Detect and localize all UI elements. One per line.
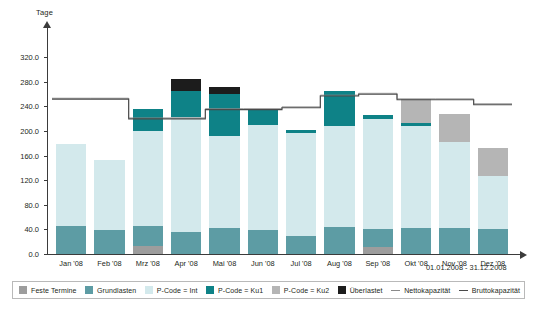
legend-swatch-icon [206,286,214,294]
bar-segment [171,79,202,92]
x-tick-label: Feb '08 [90,259,128,268]
bar-segment [171,232,202,254]
legend-label: Grundlasten [97,287,136,294]
bar-segment [286,133,317,235]
bar-segment [286,130,317,134]
period-label: 01.01.2008 - 31.12.2008 [426,263,507,272]
bar-segment [324,126,355,227]
legend-item-feste-termine[interactable]: Feste Termine [19,286,77,294]
bar-segment [363,115,394,119]
legend-swatch-icon [272,286,280,294]
bar-segment [478,229,509,254]
bar-segment [439,228,470,254]
legend-label: Feste Termine [31,287,77,294]
bar-segment [248,125,279,230]
bar-segment [478,148,509,176]
legend-line-icon [459,290,468,291]
chart-root: Tage 0.040.080.0120.0160.0200.0240.0280.… [0,0,541,309]
bar-segment [401,123,432,126]
legend-label: P-Code = Ku2 [284,287,329,294]
bar-segment [209,87,240,94]
legend-line-icon [391,290,400,291]
legend-swatch-icon [145,286,153,294]
bar-segment [56,226,87,254]
bar-segment [363,119,394,230]
x-tick-label: Mai '08 [205,259,243,268]
legend-swatch-icon [338,286,346,294]
bar-segment [324,91,355,126]
bar-segment [209,94,240,136]
legend-item-grundlasten[interactable]: Grundlasten [85,286,136,294]
bar-segment [209,136,240,227]
bar-segment [401,126,432,228]
bar-segment [133,246,164,254]
bar-segment [439,142,470,228]
x-tick-label: Mrz '08 [129,259,167,268]
bar-segment [478,176,509,229]
legend-item-ueberlastet[interactable]: Überlastet [338,286,383,294]
bar-segment [401,228,432,254]
legend-item-p-code-ku1[interactable]: P-Code = Ku1 [206,286,263,294]
legend-item-bruttokapazitaet[interactable]: Bruttokapazität [459,287,520,294]
legend-label: Bruttokapazität [472,287,520,294]
bar-segment [363,229,394,247]
legend-swatch-icon [19,286,27,294]
bar-segment [363,247,394,254]
legend-label: Überlastet [350,287,383,294]
legend-swatch-icon [85,286,93,294]
legend-item-p-code-ku2[interactable]: P-Code = Ku2 [272,286,329,294]
legend-item-nettokapazitaet[interactable]: Nettokapazität [391,287,450,294]
bar-segment [133,226,164,246]
bar-segment [94,160,125,230]
bar-segment [286,236,317,254]
bar-segment [171,117,202,232]
legend-item-p-code-int[interactable]: P-Code = Int [145,286,198,294]
x-tick-label: Jan '08 [52,259,90,268]
legend-label: P-Code = Int [157,287,198,294]
bar-segment [324,227,355,254]
bar-segment [133,109,164,131]
legend-label: Nettokapazität [404,287,450,294]
x-tick-label: Jun '08 [244,259,282,268]
x-tick-label: Apr '08 [167,259,205,268]
bar-segment [94,230,125,254]
bar-segment [209,228,240,254]
legend-label: P-Code = Ku1 [218,287,263,294]
bar-segment [56,144,87,226]
bar-segment [248,230,279,254]
bar-segment [248,110,279,125]
bar-segment [401,99,432,122]
bar-segment [171,91,202,116]
bar-segment [439,114,470,142]
x-tick-label: Aug '08 [320,259,358,268]
bar-segment [133,131,164,226]
x-tick-label: Sep '08 [359,259,397,268]
legend: Feste TermineGrundlastenP-Code = IntP-Co… [12,281,525,299]
x-tick-label: Jul '08 [282,259,320,268]
